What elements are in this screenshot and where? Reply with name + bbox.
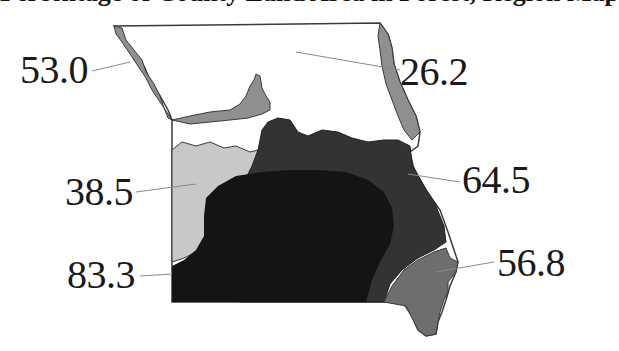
value-label-ozark-core: 83.3 [67,255,135,295]
leader-53-0 [92,62,130,71]
value-label-river-strips: 53.0 [20,50,88,90]
value-label-southeast-lowlands: 56.8 [497,243,565,283]
leader-83-3 [140,274,172,276]
value-label-northern-plains: 26.2 [400,52,468,92]
value-label-western-prairie: 38.5 [65,172,133,212]
value-label-ozark-border: 64.5 [462,160,530,200]
